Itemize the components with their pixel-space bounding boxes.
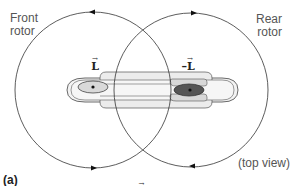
top-view-caption: (top view) — [238, 157, 290, 170]
rear-rotor-arrow-top-icon — [191, 11, 197, 16]
vector-arrow-icon: → — [184, 56, 196, 63]
rear-angular-momentum-label: → –L — [180, 60, 196, 73]
vector-arrow-icon: → — [89, 56, 101, 63]
rear-rotor-label-line2: rotor — [252, 26, 282, 39]
vector-arrow-icon: → — [137, 181, 145, 186]
front-rotor-arrow-top-icon — [89, 10, 95, 15]
net-angular-momentum-equation: Σ→L = 0 — [121, 172, 171, 186]
front-rotor-label: Front rotor — [10, 12, 38, 38]
rear-rotor-hub — [174, 84, 204, 96]
rear-rotor-label: Rear rotor — [252, 13, 282, 39]
front-rotor-label-line2: rotor — [10, 25, 38, 38]
front-rotor-arrow-bottom-icon — [91, 166, 97, 171]
panel-label: (a) — [3, 173, 18, 186]
front-angular-momentum-label: → L — [89, 60, 101, 73]
front-rotor-hub — [78, 81, 108, 93]
rear-rotor-arrow-bottom-icon — [189, 164, 195, 169]
